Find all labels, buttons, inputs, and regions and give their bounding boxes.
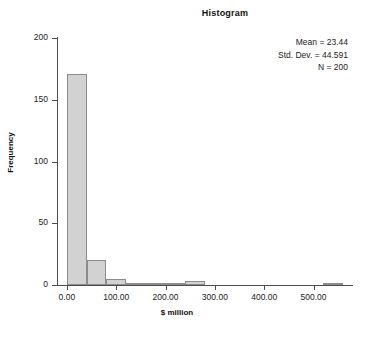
histogram-bar bbox=[106, 279, 126, 285]
x-axis-tick bbox=[314, 285, 315, 290]
y-axis-tick-label: 200 bbox=[0, 32, 48, 42]
x-axis-tick bbox=[67, 285, 68, 290]
histogram-bar bbox=[323, 283, 343, 285]
x-axis-tick-label: 0.00 bbox=[59, 292, 76, 302]
x-axis-tick-label: 200.00 bbox=[153, 292, 179, 302]
x-axis-label-text: $ million bbox=[161, 308, 193, 317]
y-axis-tick-label: 0 bbox=[0, 279, 48, 289]
histogram-bar bbox=[87, 260, 107, 285]
chart-title-text: Histogram bbox=[202, 8, 248, 18]
y-axis-label: Frequency bbox=[6, 132, 15, 172]
x-axis-tick bbox=[116, 285, 117, 290]
y-axis-tick-label: 50 bbox=[0, 217, 48, 227]
plot-area bbox=[57, 38, 353, 285]
x-axis-tick bbox=[166, 285, 167, 290]
histogram-bar bbox=[67, 74, 87, 285]
x-axis-label: $ million bbox=[0, 308, 366, 317]
x-axis-tick-label: 400.00 bbox=[251, 292, 277, 302]
x-axis-tick bbox=[215, 285, 216, 290]
histogram-bar bbox=[185, 281, 205, 285]
histogram-chart: Histogram Mean = 23.44 Std. Dev. = 44.59… bbox=[0, 0, 366, 339]
x-axis-tick-label: 500.00 bbox=[301, 292, 327, 302]
histogram-bar bbox=[146, 283, 166, 285]
y-axis-tick-label: 150 bbox=[0, 94, 48, 104]
chart-title: Histogram bbox=[0, 8, 366, 18]
y-axis-tick bbox=[52, 285, 57, 286]
histogram-bar bbox=[126, 283, 146, 285]
x-axis-tick-label: 300.00 bbox=[202, 292, 228, 302]
x-axis-tick-label: 100.00 bbox=[103, 292, 129, 302]
y-axis-tick-label: 100 bbox=[0, 156, 48, 166]
x-axis-line bbox=[57, 285, 353, 286]
histogram-bar bbox=[166, 283, 186, 285]
x-axis-tick bbox=[264, 285, 265, 290]
